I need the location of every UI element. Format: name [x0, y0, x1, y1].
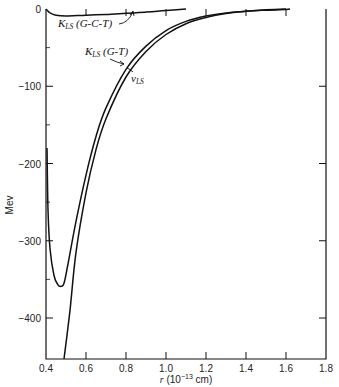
y-axis-label: Mev	[4, 196, 15, 215]
label-kls-gt: KLS (G-T)	[84, 45, 128, 59]
label-kls-gct: KLS (G-C-T)	[57, 17, 112, 31]
x-tick-label: 1.6	[279, 363, 293, 374]
x-tick-label: 0.4	[39, 363, 53, 374]
curve-vls	[64, 9, 290, 359]
axis-ticks: 0.40.60.81.01.21.41.61.80−100−200−300−40…	[18, 4, 333, 374]
y-tick-label: −100	[18, 81, 41, 92]
y-tick-label: 0	[35, 4, 41, 15]
y-tick-label: −200	[18, 159, 41, 170]
curve-kls-gct	[46, 9, 186, 16]
x-tick-label: 1.8	[319, 363, 333, 374]
x-tick-label: 0.6	[79, 363, 93, 374]
x-tick-label: 1.2	[199, 363, 213, 374]
x-axis-label: r (10−13 cm)	[160, 373, 212, 385]
y-tick-label: −300	[18, 236, 41, 247]
curve-kls-gt	[47, 9, 286, 286]
x-tick-label: 0.8	[119, 363, 133, 374]
x-tick-label: 1.0	[159, 363, 173, 374]
y-tick-label: −400	[18, 313, 41, 324]
chart: 0.40.60.81.01.21.41.61.80−100−200−300−40…	[0, 0, 339, 387]
x-tick-label: 1.4	[239, 363, 253, 374]
curve-annotations: KLS (G-C-T)KLS (G-T)vLS	[57, 11, 144, 86]
label-vls: vLS	[131, 72, 144, 86]
data-curves	[46, 9, 290, 359]
